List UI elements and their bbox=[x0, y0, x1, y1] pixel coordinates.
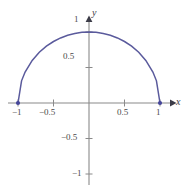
y-axis-label: y bbox=[92, 8, 96, 18]
x-axis-label: x bbox=[176, 97, 180, 107]
y-tick-label-neg1: −1 bbox=[72, 169, 82, 178]
y-tick-label-neghalf: −0.5 bbox=[61, 133, 77, 142]
plot-canvas bbox=[0, 0, 185, 193]
y-tick-label-pos1: 1 bbox=[74, 15, 79, 24]
x-tick-label-pos1: 1 bbox=[156, 108, 161, 117]
x-tick-label-neg1: −1 bbox=[12, 108, 22, 117]
endpoint-dot-right bbox=[158, 101, 162, 105]
endpoint-dot-left bbox=[16, 101, 20, 105]
semicircle-graph-figure: −1 −0.5 0.5 1 1 0.5 −0.5 −1 x y bbox=[0, 0, 185, 193]
x-tick-label-poshalf: 0.5 bbox=[117, 108, 128, 117]
y-tick-label-poshalf: 0.5 bbox=[63, 52, 74, 61]
x-tick-label-neghalf: −0.5 bbox=[39, 108, 55, 117]
